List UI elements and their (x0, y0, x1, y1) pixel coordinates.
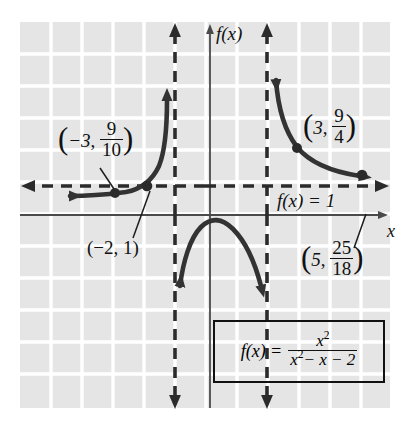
point-neg3 (110, 188, 120, 198)
formula-denominator: x2− x − 2 (288, 350, 357, 369)
y-axis-label: f(x) (216, 24, 242, 43)
point-label-neg3-x: −3 (68, 131, 90, 150)
formula-box: f(x) = x2 x2− x − 2 (213, 320, 385, 383)
paren-open: ( (303, 111, 313, 142)
fraction-numerator: 25 (330, 238, 353, 258)
point-label-neg2: (−2, 1) (87, 238, 139, 257)
fraction-denominator: 10 (100, 139, 123, 160)
formula-fraction: x2 x2− x − 2 (288, 332, 357, 368)
paren-close: ) (123, 124, 133, 155)
point-label-5-x: 5 (311, 250, 321, 269)
rational-function-figure: (−3, 9 10 ) (3, 9 4 ) (−2, 1) (5, 25 18 … (0, 0, 411, 430)
fraction-denominator: 4 (332, 126, 346, 147)
point-label-neg3: (−3, 9 10 ) (58, 120, 133, 161)
formula-denominator-rest: − x − 2 (304, 350, 356, 369)
point-label-neg3-comma: , (91, 131, 101, 150)
paren-close: ) (353, 243, 363, 274)
formula-numerator-base: x (316, 331, 324, 350)
fraction-numerator: 9 (100, 119, 123, 139)
formula-denominator-base: x (290, 350, 298, 369)
point-label-3: (3, 9 4 ) (303, 107, 356, 148)
point-label-neg3-fraction: 9 10 (100, 119, 123, 160)
point-3 (292, 143, 302, 153)
formula-lhs: f(x) = (241, 341, 283, 362)
paren-close: ) (346, 111, 356, 142)
formula-numerator-exponent: 2 (324, 330, 330, 343)
x-axis-label: x (387, 222, 395, 240)
point-neg2-hole (142, 181, 153, 192)
paren-open: ( (301, 243, 311, 274)
fraction-denominator: 18 (330, 258, 353, 279)
point-label-5: (5, 25 18 ) (301, 239, 364, 280)
horizontal-asymptote-label: f(x) = 1 (277, 191, 335, 210)
point-label-5-comma: , (321, 250, 331, 269)
point-label-5-fraction: 25 18 (330, 238, 353, 279)
paren-open: ( (58, 124, 68, 155)
formula-content: f(x) = x2 x2− x − 2 (215, 322, 383, 381)
fraction-numerator: 9 (332, 106, 346, 126)
point-label-3-x: 3 (313, 118, 323, 137)
point-label-3-comma: , (323, 118, 333, 137)
formula-numerator: x2 (288, 332, 357, 350)
point-5 (357, 170, 368, 181)
point-label-3-fraction: 9 4 (332, 106, 346, 147)
